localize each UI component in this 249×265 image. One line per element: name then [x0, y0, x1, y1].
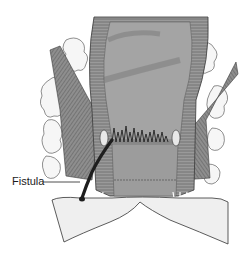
- anal-gland-left: [100, 130, 108, 146]
- skin-perineum: [52, 197, 228, 244]
- anal-canal: [112, 144, 178, 196]
- anatomy-illustration: Fistula: [0, 0, 249, 265]
- anatomy-svg: [0, 0, 249, 265]
- rectal-lumen: [104, 22, 192, 140]
- anal-gland-right: [172, 130, 180, 146]
- fistula-label: Fistula: [12, 175, 44, 188]
